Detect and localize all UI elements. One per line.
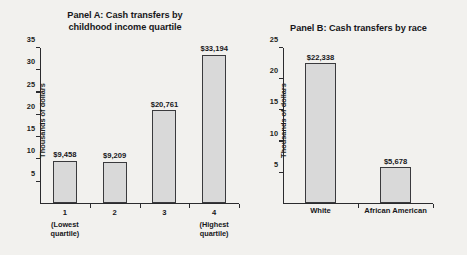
panel-a-ytick-label: 25 — [27, 79, 35, 88]
panel-a-ytick-mark — [36, 181, 40, 182]
bar-value-label: $20,761 — [151, 100, 178, 109]
panel-b-plot-area: Thousands of dollars 5 10 15 20 25 $22,3… — [283, 48, 433, 204]
bar-category-label: 1 — [63, 208, 67, 217]
bar-category-sublabel: (Highest quartile) — [200, 220, 229, 239]
panel-b-xtick-mark — [433, 204, 434, 208]
bar-quartile-1: $9,458 1 (Lowest quartile) — [53, 161, 77, 203]
panel-a-xtick-mark — [90, 204, 91, 208]
panel-b-title: Panel B: Cash transfers by race — [250, 22, 467, 34]
bar-value-label: $22,338 — [307, 53, 334, 62]
bar-category-sublabel: (Lowest quartile) — [50, 220, 79, 239]
bar-value-label: $5,678 — [384, 157, 407, 166]
bar-category-label: 4 — [212, 208, 216, 217]
bar-category-label: African American — [364, 206, 427, 215]
panel-a-ytick-label: 15 — [27, 124, 35, 133]
panel-a-plot-area: Thousands of dollars 5 10 15 20 25 30 35… — [40, 48, 239, 204]
panel-a-y-axis-label: Thousands of dollars — [38, 61, 47, 181]
panel-b-ytick-label: 20 — [270, 66, 278, 75]
panel-b-ytick-label: 10 — [270, 128, 278, 137]
bar-african-american: $5,678 African American — [380, 167, 411, 202]
panel-a-xtick-mark — [189, 204, 190, 208]
panel-a: Panel A: Cash transfers by childhood inc… — [0, 0, 250, 255]
panel-a-ytick-mark — [36, 47, 40, 48]
panel-a-ytick-label: 30 — [27, 57, 35, 66]
panel-a-ytick-label: 10 — [27, 146, 35, 155]
panel-a-xtick-mark — [140, 204, 141, 208]
panel-b-ytick-label: 25 — [270, 35, 278, 44]
figure: Panel A: Cash transfers by childhood inc… — [0, 0, 467, 255]
panel-a-ytick-mark — [36, 69, 40, 70]
bar-quartile-4: $33,194 4 (Highest quartile) — [202, 55, 226, 203]
bar-white: $22,338 White — [305, 63, 336, 202]
panel-a-title-line2: childhood income quartile — [68, 22, 181, 32]
panel-b-ytick-mark — [279, 109, 283, 110]
panel-b-ytick-mark — [279, 78, 283, 79]
bar-category-label: 2 — [113, 208, 117, 217]
panel-b-ytick-mark — [279, 47, 283, 48]
bar-value-label: $33,194 — [200, 44, 227, 53]
panel-a-ytick-mark — [36, 114, 40, 115]
panel-b: Panel B: Cash transfers by race Thousand… — [250, 0, 467, 255]
panel-a-ytick-mark — [36, 158, 40, 159]
bar-value-label: $9,209 — [103, 151, 126, 160]
bar-value-label: $9,458 — [53, 150, 76, 159]
bar-category-label: White — [310, 206, 331, 215]
panel-b-ytick-mark — [279, 172, 283, 173]
bar-quartile-2: $9,209 2 — [103, 162, 127, 203]
panel-a-ytick-mark — [36, 91, 40, 92]
bar-category-label: 3 — [162, 208, 166, 217]
panel-b-ytick-label: 5 — [274, 159, 278, 168]
panel-a-title-line1: Panel A: Cash transfers by — [67, 10, 182, 20]
panel-b-xtick-mark — [358, 204, 359, 208]
panel-a-ytick-label: 35 — [27, 35, 35, 44]
panel-a-ytick-mark — [36, 136, 40, 137]
panel-b-ytick-mark — [279, 140, 283, 141]
panel-a-ytick-label: 20 — [27, 101, 35, 110]
panel-a-xtick-mark — [239, 204, 240, 208]
panel-a-title: Panel A: Cash transfers by childhood inc… — [0, 9, 250, 33]
bar-quartile-3: $20,761 3 — [152, 110, 176, 203]
panel-b-ytick-label: 15 — [270, 97, 278, 106]
panel-a-ytick-label: 5 — [31, 168, 35, 177]
